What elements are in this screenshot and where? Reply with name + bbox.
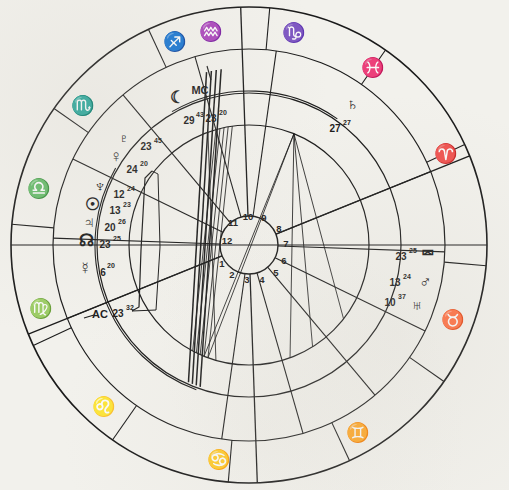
planet-glyph-venus: ♀	[110, 147, 123, 166]
planet-glyph-mercury: ☿	[79, 259, 92, 278]
planet-glyph-moon: ☾	[170, 88, 185, 107]
house-number-8: 8	[276, 223, 281, 234]
planet-degree-south-node: 23	[395, 251, 407, 262]
planet-glyph-midheaven: MC	[191, 84, 208, 96]
zodiac-sign-libra: ♎	[27, 177, 51, 200]
house-number-7: 7	[283, 238, 288, 249]
house-number-3: 3	[244, 274, 249, 285]
planet-minute-north-node: 25	[113, 235, 121, 242]
midheaven-tick	[207, 66, 211, 80]
house-cusp-spoke-12	[222, 274, 245, 439]
planet-degree-mercury: 6	[100, 267, 106, 278]
planet-minute-saturn: 27	[343, 119, 351, 126]
house-cusp-spoke-11	[257, 273, 303, 434]
planet-minute-uranus: 37	[398, 293, 406, 300]
planet-minute-mercury: 20	[107, 262, 115, 269]
astrology-chart-wheel: ♈♉♊♋♌♍♎♏♐♑♒♓123456789101112♇2345♀2420♆12…	[0, 0, 509, 490]
house-number-10: 10	[243, 211, 254, 222]
house-cusp-spoke-10	[268, 267, 375, 395]
house-number-5: 5	[273, 267, 279, 278]
planet-minute-moon: 43	[196, 111, 204, 118]
planet-glyph-mars: ♂	[419, 272, 432, 291]
house-cusp-spoke-5	[195, 57, 241, 218]
sign-cusp-divider-8	[112, 406, 136, 440]
planet-minute-venus: 20	[140, 160, 148, 167]
planet-degree-ascendant: 23	[112, 308, 124, 319]
aspect-saturn-venus	[290, 134, 294, 358]
planet-glyph-neptune: ♆	[94, 177, 107, 196]
chart-canvas: ♈♉♊♋♌♍♎♏♐♑♒♓123456789101112♇2345♀2420♆12…	[0, 0, 509, 490]
planet-minute-midheaven: 20	[219, 109, 227, 116]
zodiac-sign-capricorn: ♑	[282, 21, 306, 44]
house-number-11: 11	[228, 217, 239, 228]
house-cusp-spoke-6	[253, 51, 276, 216]
house-number-6: 6	[281, 255, 286, 266]
planet-degree-sun: 13	[109, 205, 121, 216]
planet-glyph-jupiter: ♃	[83, 213, 96, 232]
planet-minute-pluto: 45	[154, 137, 162, 144]
zodiac-sign-leo: ♌	[92, 395, 116, 418]
house-number-1: 1	[219, 258, 225, 269]
planet-minute-ascendant: 32	[126, 304, 134, 311]
planet-degree-jupiter: 20	[104, 222, 116, 233]
planet-minute-mars: 24	[403, 273, 411, 280]
planet-degree-north-node: 23	[99, 239, 111, 250]
planet-minute-south-node: 25	[409, 247, 417, 254]
aspect-saturn-moon	[294, 134, 344, 319]
planet-glyph-ascendant: AC	[92, 308, 108, 320]
zodiac-sign-cancer: ♋	[207, 448, 231, 471]
zodiac-sign-taurus: ♉	[441, 308, 465, 331]
planet-glyph-sun: ☉	[85, 195, 100, 214]
descendant-axis	[276, 156, 470, 234]
house-number-9: 9	[261, 212, 266, 223]
imum-coeli-axis	[250, 274, 257, 483]
zodiac-sign-pisces: ♓	[361, 56, 385, 79]
zodiac-sign-scorpio: ♏	[71, 94, 95, 117]
house-cusp-spoke-8	[278, 246, 445, 252]
planet-glyph-uranus: ♅	[411, 296, 424, 315]
house-number-2: 2	[229, 269, 234, 280]
midheaven-axis	[241, 7, 248, 216]
zodiac-sign-sagittarius: ♐	[163, 30, 187, 53]
zodiac-sign-gemini: ♊	[346, 421, 370, 444]
sign-cusp-divider-1	[266, 8, 270, 50]
planet-degree-uranus: 10	[384, 297, 396, 308]
zodiac-sign-virgo: ♍	[29, 297, 53, 320]
planet-minute-sun: 23	[123, 201, 131, 208]
planet-minute-jupiter: 26	[118, 218, 126, 225]
planet-minute-neptune: 24	[127, 185, 135, 192]
planet-glyph-south-node: ⮹	[421, 244, 435, 263]
house-number-4: 4	[259, 274, 265, 285]
zodiac-sign-aries: ♈	[434, 142, 458, 165]
sign-cusp-divider-10	[12, 224, 54, 228]
planet-degree-midheaven: 23	[205, 113, 217, 124]
house-number-12: 12	[222, 235, 233, 246]
planet-glyph-saturn: ♄	[346, 95, 359, 114]
planet-degree-mars: 13	[389, 277, 401, 288]
planet-glyph-pluto: ♇	[118, 129, 131, 148]
planet-degree-pluto: 23	[140, 141, 152, 152]
aspect-saturn-pluto	[294, 134, 313, 347]
planet-degree-saturn: 27	[329, 123, 341, 134]
planet-degree-moon: 29	[183, 115, 195, 126]
sign-cusp-divider-5	[410, 357, 444, 381]
planet-glyph-north-node: ☊	[79, 231, 94, 250]
planet-degree-venus: 24	[126, 164, 138, 175]
sign-cusp-divider-4	[444, 262, 486, 266]
planet-degree-neptune: 12	[113, 189, 125, 200]
zodiac-sign-aquarius: ♒	[199, 20, 223, 43]
